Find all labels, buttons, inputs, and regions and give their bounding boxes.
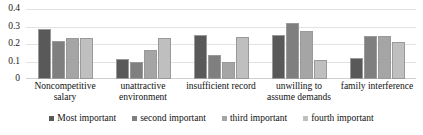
legend-swatch-icon — [49, 116, 54, 121]
bar-group — [182, 9, 260, 79]
bar — [222, 62, 235, 79]
bar-group — [104, 9, 182, 79]
bar — [144, 50, 157, 79]
bar-groups — [26, 9, 416, 79]
bar — [392, 42, 405, 79]
legend-label: Most important — [57, 114, 116, 124]
x-axis-category-label: insufficient record — [182, 81, 260, 103]
bar — [66, 38, 79, 79]
x-axis-category-label: unattractive environment — [104, 81, 182, 103]
bar — [130, 62, 143, 80]
bar — [364, 36, 377, 79]
legend-item: third important — [222, 114, 287, 124]
bar — [378, 36, 391, 79]
y-axis-tick: 0 — [15, 74, 20, 84]
bar — [52, 41, 65, 79]
bar — [314, 60, 327, 79]
bar-group — [260, 9, 338, 79]
x-axis-category-label: unwilling to assume demands — [260, 81, 338, 103]
y-axis-tick: 0.2 — [8, 39, 20, 49]
plot-area — [26, 9, 416, 79]
bar — [286, 23, 299, 79]
legend-label: fourth important — [311, 114, 374, 124]
bar — [38, 29, 51, 79]
legend-item: second important — [132, 114, 206, 124]
bar-group — [338, 9, 416, 79]
bar-group — [26, 9, 104, 79]
y-axis-tick: 0.4 — [8, 4, 20, 14]
y-axis-tick: 0.1 — [8, 57, 20, 67]
legend-label: third important — [230, 114, 287, 124]
bar — [194, 35, 207, 79]
bar — [236, 37, 249, 79]
legend-label: second important — [140, 114, 206, 124]
bar — [158, 38, 171, 79]
legend-swatch-icon — [303, 116, 308, 121]
legend-item: Most important — [49, 114, 116, 124]
chart-legend: Most importantsecond importantthird impo… — [0, 114, 423, 124]
bar-chart: 0.4 0.3 0.2 0.1 0 Noncompetitive salaryu… — [0, 0, 423, 135]
bar — [80, 38, 93, 79]
x-axis-labels: Noncompetitive salaryunattractive enviro… — [26, 81, 416, 103]
y-axis: 0.4 0.3 0.2 0.1 0 — [0, 0, 24, 88]
bar — [300, 31, 313, 79]
legend-item: fourth important — [303, 114, 374, 124]
y-axis-tick: 0.3 — [8, 22, 20, 32]
bar — [116, 59, 129, 79]
bar — [350, 58, 363, 79]
legend-swatch-icon — [222, 116, 227, 121]
x-axis-category-label: Noncompetitive salary — [26, 81, 104, 103]
legend-swatch-icon — [132, 116, 137, 121]
bar — [272, 35, 285, 79]
bar — [208, 55, 221, 80]
x-axis-category-label: family interference — [338, 81, 416, 103]
